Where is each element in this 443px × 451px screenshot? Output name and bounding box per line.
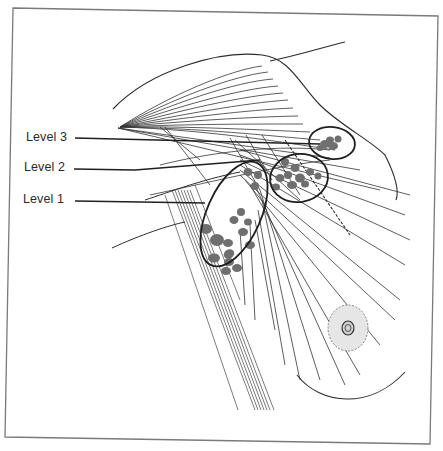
anatomy-illustration [0, 0, 443, 451]
level-2-label: Level 2 [24, 160, 65, 174]
chest-wall-band [165, 185, 274, 410]
radiating-lines [150, 135, 410, 385]
level-2-leader [74, 160, 260, 170]
level-3-lymph-nodes [317, 136, 342, 152]
level-3-label: Level 3 [26, 130, 67, 144]
level-1-label: Level 1 [23, 192, 64, 206]
figure-frame [5, 8, 438, 444]
breast-outline [297, 372, 405, 399]
nipple-areola [328, 305, 368, 351]
axillary-lymph-node-diagram: Level 3 Level 2 Level 1 [0, 0, 443, 451]
